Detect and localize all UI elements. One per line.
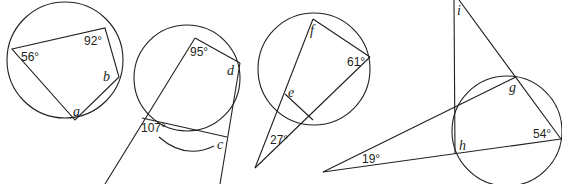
secant-right bbox=[220, 63, 240, 184]
secant-left bbox=[105, 38, 195, 184]
unknown-c: c bbox=[217, 137, 224, 152]
chord-f-61 bbox=[313, 19, 370, 57]
unknown-f: f bbox=[310, 23, 316, 38]
unknown-h: h bbox=[459, 138, 466, 153]
unknown-a: a bbox=[73, 104, 80, 119]
circle-3 bbox=[258, 13, 370, 125]
angle-label-19: 19° bbox=[362, 152, 380, 166]
unknown-i: i bbox=[457, 3, 461, 18]
exterior-arc bbox=[159, 137, 214, 151]
vertical-line bbox=[454, 0, 455, 154]
secant-through-61 bbox=[255, 57, 370, 168]
secant-lower bbox=[323, 139, 561, 172]
secant-upper bbox=[323, 77, 516, 172]
angle-label-61: 61° bbox=[347, 55, 365, 69]
unknown-e: e bbox=[288, 85, 294, 100]
angle-label-27: 27° bbox=[270, 133, 288, 147]
angle-label-54: 54° bbox=[533, 127, 551, 141]
slanted-line bbox=[459, 0, 561, 139]
geometry-diagram: 56° 92° b a 95° d 107° c f 61° e 27° i bbox=[0, 0, 562, 184]
angle-label-56: 56° bbox=[21, 50, 39, 64]
angle-label-95: 95° bbox=[190, 45, 208, 59]
figure-4: i g 54° h 19° bbox=[323, 0, 562, 184]
figure-1: 56° 92° b a bbox=[7, 2, 123, 120]
unknown-b: b bbox=[103, 69, 110, 84]
figure-2: 95° d 107° c bbox=[105, 25, 240, 184]
figure-3: f 61° e 27° bbox=[255, 13, 370, 168]
angle-label-107: 107° bbox=[141, 121, 166, 135]
angle-label-92: 92° bbox=[84, 34, 102, 48]
circle-2 bbox=[134, 25, 240, 131]
unknown-d: d bbox=[227, 63, 235, 78]
unknown-g: g bbox=[509, 80, 516, 95]
